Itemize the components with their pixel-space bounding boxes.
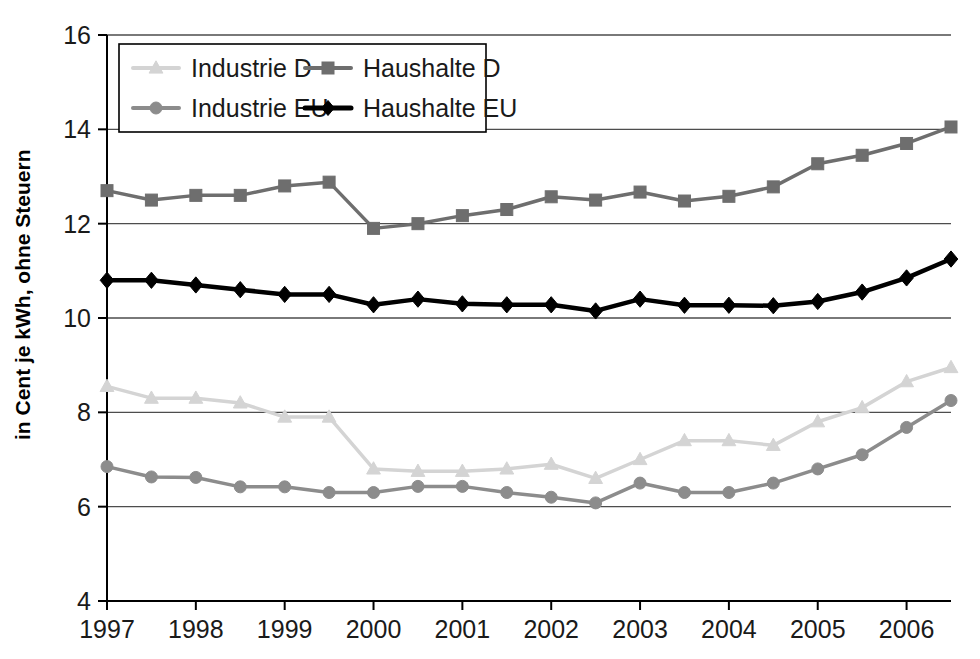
y-tick-label: 4 <box>77 587 91 615</box>
y-tick-label: 16 <box>63 21 91 49</box>
marker-circle <box>856 449 868 461</box>
legend-item-label: Haushalte D <box>363 54 501 82</box>
y-tick-label: 14 <box>63 115 91 143</box>
marker-circle <box>590 497 602 509</box>
x-tick-label: 2002 <box>523 615 579 643</box>
marker-square <box>723 190 735 202</box>
x-tick-label: 1997 <box>79 615 135 643</box>
marker-square <box>368 222 380 234</box>
marker-circle <box>901 421 913 433</box>
marker-circle <box>678 487 690 499</box>
marker-square <box>678 195 690 207</box>
x-tick-label: 2001 <box>435 615 491 643</box>
x-tick-label: 2003 <box>612 615 668 643</box>
x-tick-label: 2000 <box>346 615 402 643</box>
marker-circle <box>412 480 424 492</box>
y-tick-label: 10 <box>63 304 91 332</box>
chart-legend: Industrie DHaushalte DIndustrie EUHausha… <box>119 44 517 132</box>
marker-circle <box>812 463 824 475</box>
marker-circle <box>234 481 246 493</box>
marker-square <box>767 181 779 193</box>
marker-circle <box>945 395 957 407</box>
marker-circle <box>501 487 513 499</box>
marker-circle <box>190 471 202 483</box>
marker-circle <box>145 471 157 483</box>
y-tick-label: 12 <box>63 210 91 238</box>
line-chart: 16141210864 1997199819992000200120022003… <box>0 0 980 659</box>
marker-square <box>323 176 335 188</box>
marker-square <box>545 191 557 203</box>
marker-circle <box>323 487 335 499</box>
marker-circle <box>767 477 779 489</box>
y-tick-label: 8 <box>77 398 91 426</box>
marker-square <box>856 149 868 161</box>
x-tick-label: 1998 <box>168 615 224 643</box>
x-tick-label: 1999 <box>257 615 313 643</box>
marker-square <box>145 194 157 206</box>
marker-circle <box>279 481 291 493</box>
marker-square <box>501 204 513 216</box>
legend-item-label: Industrie D <box>191 54 312 82</box>
marker-circle <box>101 461 113 473</box>
marker-square <box>412 218 424 230</box>
marker-circle <box>634 477 646 489</box>
marker-square <box>234 189 246 201</box>
chart-page: 16141210864 1997199819992000200120022003… <box>0 0 980 659</box>
x-tick-label: 2004 <box>701 615 757 643</box>
legend-item-label: Haushalte EU <box>363 94 517 122</box>
marker-square <box>901 137 913 149</box>
marker-circle <box>545 491 557 503</box>
x-tick-label: 2005 <box>790 615 846 643</box>
marker-square <box>812 158 824 170</box>
marker-square <box>634 186 646 198</box>
marker-square <box>322 62 334 74</box>
marker-circle <box>150 102 162 114</box>
marker-circle <box>368 487 380 499</box>
marker-square <box>590 194 602 206</box>
marker-square <box>279 180 291 192</box>
marker-circle <box>723 487 735 499</box>
marker-square <box>945 121 957 133</box>
y-axis-title: in Cent je kWh, ohne Steuern <box>11 149 34 440</box>
marker-square <box>456 210 468 222</box>
y-tick-label: 6 <box>77 493 91 521</box>
marker-circle <box>456 480 468 492</box>
marker-square <box>190 189 202 201</box>
marker-square <box>101 185 113 197</box>
x-tick-label: 2006 <box>879 615 935 643</box>
